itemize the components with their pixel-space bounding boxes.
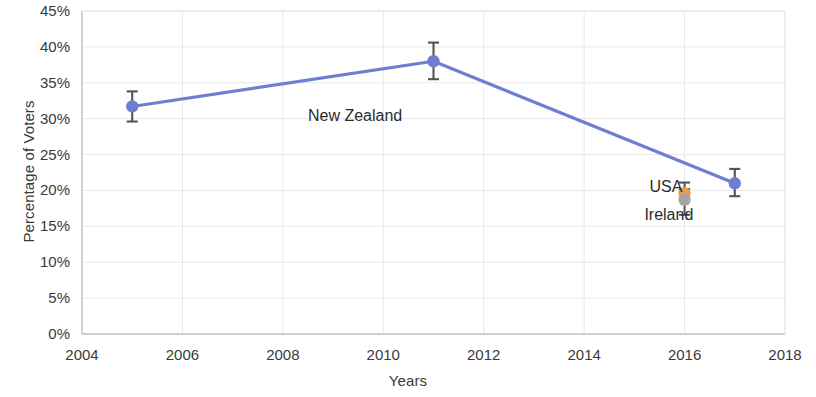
y-axis-tick-label: 0% (4, 325, 70, 342)
y-axis-tick-label: 10% (4, 253, 70, 270)
x-axis-tick-label: 2014 (554, 346, 614, 363)
y-axis-tick-label: 5% (4, 289, 70, 306)
x-axis-tick-label: 2010 (353, 346, 413, 363)
y-axis-tick-label: 15% (4, 217, 70, 234)
x-axis-tick-label: 2006 (152, 346, 212, 363)
x-axis-tick-label: 2016 (655, 346, 715, 363)
x-axis-tick-label: 2018 (755, 346, 815, 363)
x-axis-title: Years (0, 372, 816, 389)
y-axis-tick-label: 45% (4, 2, 70, 19)
chart-plot-area (0, 0, 816, 397)
vertical-gridlines (182, 11, 785, 334)
error-bars (127, 43, 741, 215)
data-point-marker (126, 100, 138, 112)
x-axis-tick-label: 2012 (454, 346, 514, 363)
y-axis-tick-label: 20% (4, 181, 70, 198)
y-axis-tick-label: 40% (4, 38, 70, 55)
x-axis-tick-label: 2004 (52, 346, 112, 363)
data-point-marker (729, 177, 741, 189)
y-axis-tick-label: 35% (4, 74, 70, 91)
y-axis-tick-label: 25% (4, 146, 70, 163)
y-axis-tick-label: 30% (4, 110, 70, 127)
series-annotation-label: New Zealand (308, 107, 402, 125)
chart-figure: Percentage of Voters Years 0%5%10%15%20%… (0, 0, 816, 397)
series-annotation-label: USA (649, 178, 682, 196)
data-point-marker (427, 55, 439, 67)
x-axis-tick-label: 2008 (253, 346, 313, 363)
series-annotation-label: Ireland (644, 206, 693, 224)
